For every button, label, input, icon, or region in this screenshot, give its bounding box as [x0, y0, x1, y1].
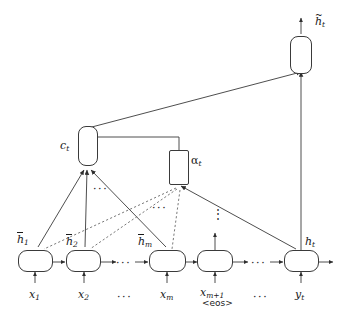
label-encoder-state-m: hm: [138, 236, 152, 249]
label-attentional-state: ~ht: [315, 16, 325, 29]
ellipsis-alpha-fan: ···: [152, 203, 167, 214]
ellipsis-vertical-stack: ⋮: [212, 208, 224, 220]
context-to-attentional-state: [88, 72, 301, 128]
alpha-to-encoder2: [90, 189, 177, 249]
attention-mechanism-diagram: ~ht ct αt h1 h2 hm ht x1 x2 xm xm+1 <eos…: [0, 0, 348, 316]
encoder-cell-m: [149, 250, 186, 272]
ellipsis-input-gap-2: ···: [253, 292, 268, 303]
label-input-eos: <eos>: [202, 299, 233, 308]
node-context-vector: [78, 126, 98, 166]
label-encoder-state-1: h1: [17, 234, 29, 247]
label-input-x2: x2: [78, 289, 89, 302]
node-attentional-state: [290, 36, 312, 74]
label-encoder-state-2: h2: [66, 236, 78, 249]
ellipsis-input-gap-1: ···: [117, 292, 132, 303]
ellipsis-sequence-2: ···: [251, 258, 266, 269]
ellipsis-sequence-1: ···: [116, 258, 131, 269]
encoder-cell-eos: [197, 250, 233, 272]
decoder-cell-t: [284, 250, 319, 272]
label-decoder-state-t: ht: [305, 236, 315, 249]
encoder-cell-1: [18, 250, 53, 272]
encoder2-to-context: [85, 170, 87, 247]
label-context-vector: ct: [60, 140, 69, 153]
decoder-to-alpha: [181, 186, 296, 249]
alpha-to-encoderm: [172, 190, 180, 249]
encoder-cell-2: [66, 250, 101, 272]
label-input-x1: x1: [29, 289, 40, 302]
label-attention-weights: αt: [191, 155, 201, 168]
ellipsis-context-fan: ···: [93, 184, 108, 195]
label-input-xm: xm: [160, 289, 173, 302]
node-attention-weights: [169, 150, 189, 185]
label-input-yt: yt: [295, 289, 304, 302]
alpha-to-encoder1: [44, 188, 176, 249]
